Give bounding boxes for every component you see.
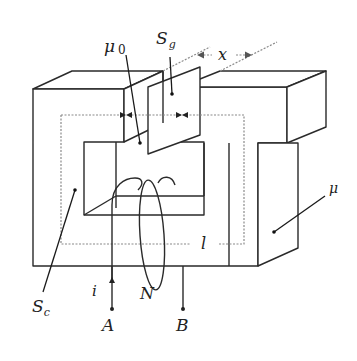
label-a: A	[100, 315, 114, 335]
label-b: B	[175, 315, 189, 335]
label-sg: Sg	[156, 28, 176, 51]
core-leg-side-face	[258, 143, 298, 266]
label-sc: Sc	[32, 296, 50, 319]
window-floor-diagonal	[84, 196, 116, 215]
label-mu: μ	[329, 180, 338, 196]
magnetic-circuit-diagram: μ0 Sg x μ l i N Sc A B	[0, 0, 357, 361]
label-i: i	[92, 282, 97, 300]
terminal-a-dot	[110, 307, 114, 311]
label-n: N	[139, 284, 155, 303]
label-x: x	[218, 45, 227, 64]
label-l: l	[201, 234, 206, 253]
terminal-b-dot	[181, 307, 185, 311]
current-arrow-icon	[109, 277, 115, 283]
coil-turn-2-back	[158, 177, 175, 185]
label-mu0: μ0	[104, 36, 126, 57]
